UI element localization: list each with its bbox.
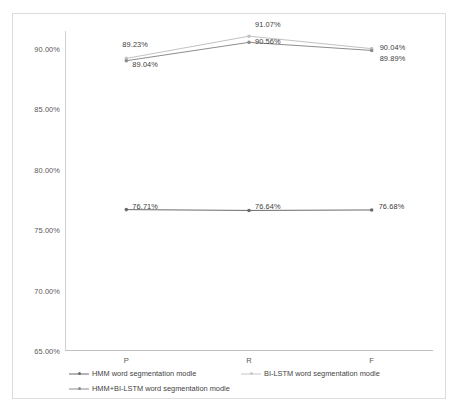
series-point-marker (247, 41, 251, 45)
series-point-marker (370, 208, 374, 212)
data-point-label: 76.68% (379, 202, 405, 211)
chart-legend: HMM word segmentation modle BI-LSTM word… (69, 366, 435, 396)
y-axis-tick-label: 65.00% (34, 347, 60, 356)
y-axis-tick-label: 70.00% (34, 286, 60, 295)
series-lines (65, 31, 433, 351)
y-axis-tick-label: 75.00% (34, 226, 60, 235)
y-axis-tick-label: 85.00% (34, 105, 60, 114)
series-point-marker (247, 209, 251, 213)
legend-marker-icon (241, 370, 261, 378)
legend-item-hmm-bilstm[interactable]: HMM+BI-LSTM word segmentation modle (69, 384, 241, 393)
data-point-label: 89.89% (380, 54, 406, 63)
legend-label: BI-LSTM word segmentation modle (264, 369, 380, 378)
series-point-marker (125, 59, 129, 63)
legend-row: HMM+BI-LSTM word segmentation modle (69, 381, 435, 396)
plot-area: 65.00%70.00%75.00%80.00%85.00%90.00% PRF… (65, 31, 433, 351)
legend-label: HMM+BI-LSTM word segmentation modle (92, 384, 230, 393)
y-axis-tick-label: 90.00% (34, 45, 60, 54)
legend-item-bilstm[interactable]: BI-LSTM word segmentation modle (241, 369, 380, 378)
y-axis-tick-label: 80.00% (34, 165, 60, 174)
series-point-marker (370, 49, 374, 53)
x-axis-tick-label: P (124, 356, 129, 365)
data-point-label: 91.07% (255, 20, 281, 29)
data-point-label: 89.23% (122, 40, 148, 49)
legend-item-hmm[interactable]: HMM word segmentation modle (69, 369, 241, 378)
x-axis-tick-label: R (246, 356, 251, 365)
data-point-label: 76.64% (255, 202, 281, 211)
x-axis-tick-label: F (369, 356, 374, 365)
series-point-marker (125, 208, 129, 212)
chart-frame: 65.00%70.00%75.00%80.00%85.00%90.00% PRF… (12, 13, 446, 399)
data-point-label: 89.04% (132, 60, 158, 69)
data-point-label: 90.56% (255, 37, 281, 46)
legend-marker-icon (69, 385, 89, 393)
data-point-label: 90.04% (380, 43, 406, 52)
data-point-label: 76.71% (132, 202, 158, 211)
legend-marker-icon (69, 370, 89, 378)
series-point-marker (247, 34, 251, 38)
legend-label: HMM word segmentation modle (92, 369, 196, 378)
legend-row: HMM word segmentation modle BI-LSTM word… (69, 366, 435, 381)
